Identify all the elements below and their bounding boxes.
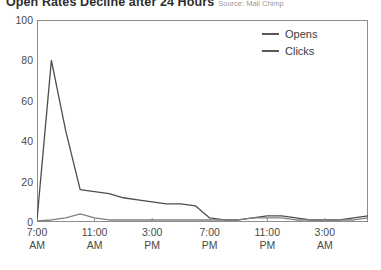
x-tick-time: 7:00 [27,226,47,238]
x-axis-tick-label: 11:00AM [82,226,108,252]
x-tick-meridiem: AM [82,239,108,252]
x-axis: 7:00AM11:00AM3:00PM7:00PM11:00PM3:00AM [0,0,381,270]
x-tick-meridiem: PM [142,239,162,252]
legend-item-clicks[interactable]: Clicks [262,43,317,58]
x-tick-time: 7:00 [199,226,219,238]
x-tick-meridiem: PM [199,239,219,252]
x-tick-time: 3:00 [142,226,162,238]
x-axis-tick-label: 3:00PM [142,226,162,252]
chart-container: Open Rates Decline after 24 HoursSource:… [0,0,381,270]
x-axis-tick-label: 7:00AM [27,226,47,252]
x-axis-tick-label: 7:00PM [199,226,219,252]
x-tick-meridiem: PM [255,239,281,252]
x-tick-time: 11:00 [255,226,281,238]
x-tick-time: 3:00 [315,226,335,238]
x-tick-meridiem: AM [27,239,47,252]
legend-label: Opens [285,28,317,40]
x-axis-tick-label: 3:00AM [315,226,335,252]
legend-item-opens[interactable]: Opens [262,26,317,41]
chart-legend: OpensClicks [262,26,317,60]
x-axis-tick-label: 11:00PM [255,226,281,252]
x-tick-meridiem: AM [315,239,335,252]
x-tick-time: 11:00 [82,226,108,238]
legend-swatch-icon [262,50,279,52]
legend-swatch-icon [262,33,279,35]
legend-label: Clicks [285,45,314,57]
